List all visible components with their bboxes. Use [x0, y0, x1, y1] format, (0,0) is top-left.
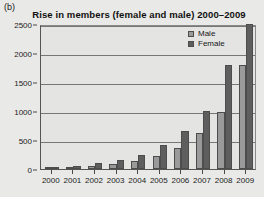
- x-tick-label: 2004: [128, 176, 146, 185]
- y-tick-label: 500: [19, 137, 32, 146]
- bar-male-2001: [66, 167, 73, 169]
- x-tick-label: 2000: [42, 176, 60, 185]
- y-tick-label: 0: [28, 166, 32, 175]
- bar-female-2009: [246, 24, 253, 169]
- bar-female-2006: [181, 131, 188, 169]
- bar-male-2000: [45, 167, 52, 169]
- y-tick-mark: [33, 25, 37, 26]
- bar-group: [63, 26, 85, 169]
- x-tick-label: 2007: [193, 176, 211, 185]
- bar-female-2002: [95, 163, 102, 169]
- bar-group: [235, 26, 257, 169]
- legend-item-male: Male: [188, 29, 225, 38]
- legend-label: Female: [198, 39, 225, 48]
- y-tick-label: 1000: [14, 108, 32, 117]
- x-tick-mark: [224, 170, 225, 174]
- chart-title: Rise in members (female and male) 2000–2…: [0, 9, 264, 20]
- bar-female-2008: [225, 65, 232, 169]
- legend-swatch-icon: [188, 31, 194, 37]
- x-tick-label: 2001: [63, 176, 81, 185]
- bar-group: [149, 26, 171, 169]
- x-tick-mark: [245, 170, 246, 174]
- legend-item-female: Female: [188, 39, 225, 48]
- x-tick-mark: [180, 170, 181, 174]
- y-tick-label: 2000: [14, 50, 32, 59]
- y-tick-label: 2500: [14, 21, 32, 30]
- bar-female-2000: [52, 167, 59, 169]
- bar-female-2004: [138, 155, 145, 170]
- x-tick-label: 2002: [85, 176, 103, 185]
- figure-panel: (b) Rise in members (female and male) 20…: [0, 0, 264, 197]
- bar-group: [84, 26, 106, 169]
- legend-swatch-icon: [188, 41, 194, 47]
- y-tick-mark: [33, 141, 37, 142]
- bar-male-2006: [174, 148, 181, 169]
- bar-group: [41, 26, 63, 169]
- bar-female-2003: [117, 160, 124, 169]
- legend: MaleFemale: [188, 29, 225, 49]
- bar-male-2002: [88, 166, 95, 169]
- x-axis-ticks: [40, 170, 256, 175]
- bar-male-2003: [109, 164, 116, 169]
- x-tick-mark: [202, 170, 203, 174]
- bar-male-2005: [153, 156, 160, 169]
- x-tick-label: 2006: [171, 176, 189, 185]
- y-tick-mark: [33, 170, 37, 171]
- x-tick-label: 2009: [236, 176, 254, 185]
- x-tick-label: 2005: [150, 176, 168, 185]
- y-tick-mark: [33, 83, 37, 84]
- bar-male-2008: [217, 112, 224, 169]
- x-tick-mark: [137, 170, 138, 174]
- bar-male-2009: [239, 65, 246, 169]
- bar-female-2005: [160, 145, 167, 169]
- x-tick-label: 2003: [107, 176, 125, 185]
- y-tick-mark: [33, 112, 37, 113]
- x-tick-mark: [72, 170, 73, 174]
- legend-label: Male: [198, 29, 215, 38]
- x-tick-mark: [51, 170, 52, 174]
- bar-male-2004: [131, 161, 138, 169]
- y-axis: 05001000150020002500: [0, 25, 37, 170]
- bar-female-2001: [73, 166, 80, 169]
- y-tick-mark: [33, 54, 37, 55]
- bar-male-2007: [196, 133, 203, 169]
- bar-female-2007: [203, 111, 210, 169]
- bar-group: [127, 26, 149, 169]
- x-tick-mark: [159, 170, 160, 174]
- x-axis: 2000200120022003200420052006200720082009: [40, 176, 256, 190]
- y-tick-label: 1500: [14, 79, 32, 88]
- x-tick-mark: [94, 170, 95, 174]
- x-tick-label: 2008: [215, 176, 233, 185]
- x-tick-mark: [116, 170, 117, 174]
- bar-group: [106, 26, 128, 169]
